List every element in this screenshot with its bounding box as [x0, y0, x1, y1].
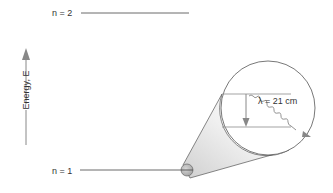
level-n2: n = 2: [52, 8, 189, 18]
wavelength-label: λ = 21 cm: [258, 96, 297, 106]
level-n1-label: n = 1: [52, 166, 72, 176]
energy-axis: Energy, E: [21, 48, 31, 145]
energy-level-diagram: Energy, E n = 2 n = 1 λ = 21 cm: [0, 0, 333, 193]
level-n1: n = 1: [52, 166, 186, 176]
axis-label: Energy, E: [21, 71, 31, 110]
magnified-circle: [221, 61, 315, 155]
level-n2-label: n = 2: [52, 8, 72, 18]
axis-arrowhead-icon: [22, 48, 30, 60]
magnified-view: λ = 21 cm: [221, 61, 315, 155]
